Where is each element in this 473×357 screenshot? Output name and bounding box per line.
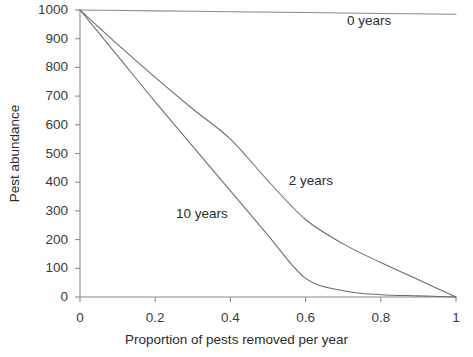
y-tick-label: 1000 — [12, 3, 68, 17]
y-axis-ticks — [75, 10, 80, 297]
x-axis-title: Proportion of pests removed per year — [0, 332, 473, 347]
series-line-10-years — [80, 10, 456, 297]
annotation-0-years: 0 years — [347, 14, 391, 28]
y-tick-label: 100 — [12, 261, 68, 275]
series-line-2-years — [80, 10, 456, 297]
y-tick-label: 900 — [12, 32, 68, 46]
x-tick-label: 0.4 — [200, 311, 260, 325]
x-tick-label: 1 — [426, 311, 473, 325]
data-series-group — [80, 10, 456, 297]
series-line-0-years — [80, 10, 456, 14]
x-tick-label: 0 — [50, 311, 110, 325]
x-tick-label: 0.2 — [125, 311, 185, 325]
x-tick-label: 0.6 — [276, 311, 336, 325]
y-tick-label: 0 — [12, 290, 68, 304]
x-tick-label: 0.8 — [351, 311, 411, 325]
chart-plot-area — [0, 0, 473, 357]
y-axis-title: Pest abundance — [7, 64, 22, 244]
annotation-2-years: 2 years — [289, 174, 333, 188]
x-axis-ticks — [80, 297, 456, 302]
annotation-10-years: 10 years — [176, 207, 228, 221]
figure-canvas: 01002003004005006007008009001000 00.20.4… — [0, 0, 473, 357]
